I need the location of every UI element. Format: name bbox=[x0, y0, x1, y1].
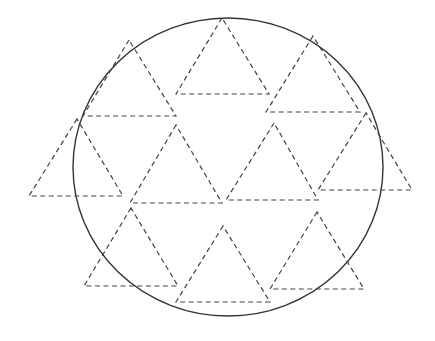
diagram-canvas bbox=[0, 0, 435, 341]
dashed-triangle-3 bbox=[266, 36, 360, 112]
dashed-triangle-10 bbox=[270, 212, 364, 289]
dashed-triangle-6 bbox=[226, 123, 318, 200]
dashed-triangle-9 bbox=[176, 226, 270, 302]
dashed-triangle-5 bbox=[130, 125, 222, 203]
triangle-group bbox=[29, 18, 412, 302]
dashed-triangle-8 bbox=[84, 208, 178, 286]
dashed-triangle-2 bbox=[176, 18, 269, 94]
dashed-triangle-4 bbox=[29, 119, 123, 196]
dashed-triangle-7 bbox=[318, 113, 412, 190]
circle bbox=[73, 18, 383, 316]
